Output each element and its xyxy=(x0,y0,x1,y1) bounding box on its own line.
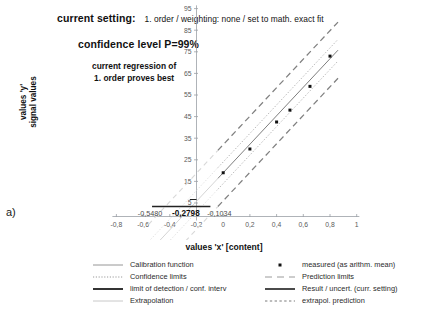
legend-item: Prediction limits xyxy=(264,271,448,282)
x-tick-label: -0,4 xyxy=(164,221,176,228)
chart-legend: Calibration functionConfidence limitslim… xyxy=(92,259,448,306)
y-tick-label: 45 xyxy=(184,113,192,120)
data-point xyxy=(288,109,291,112)
confidence-limit-line xyxy=(218,61,338,189)
data-point xyxy=(329,55,332,58)
x-tick-label: 0,8 xyxy=(325,221,335,228)
x-tick-label: 0 xyxy=(221,221,225,228)
x-tick-label: 0,6 xyxy=(299,221,309,228)
legend-label: Result / uncert. (curr. setting) xyxy=(302,284,398,293)
legend-item: Calibration function xyxy=(92,259,264,270)
legend-label: limit of detection / conf. interv xyxy=(130,284,226,293)
x-axis-annotation-1: -0,5480 xyxy=(138,209,162,218)
calibration-plot: -0,8-0,6-0,4-0,200,20,40,60,815152535455… xyxy=(0,0,448,240)
prediction-limit-line xyxy=(218,78,338,206)
legend-label: Calibration function xyxy=(130,260,194,269)
legend-solid-thin-icon xyxy=(92,260,126,270)
y-tick-label: 75 xyxy=(184,48,192,55)
data-point xyxy=(222,171,225,174)
x-axis-annotation-2: -0,2798 xyxy=(172,209,200,218)
legend-solid-dark-icon xyxy=(264,284,298,294)
legend-dotted-icon xyxy=(92,272,126,282)
legend-item: measured (as arithm. mean) xyxy=(264,259,448,270)
x-tick-label: 1 xyxy=(355,221,359,228)
legend-label: Extrapolation xyxy=(130,296,173,305)
data-point xyxy=(248,148,251,151)
legend-solid-light-icon xyxy=(92,296,126,306)
y-tick-label: 95 xyxy=(184,5,192,12)
prediction-limit-line xyxy=(218,22,338,150)
x-tick-label: -0,6 xyxy=(137,221,149,228)
legend-dotted-small-icon xyxy=(264,296,298,306)
legend-label: Prediction limits xyxy=(302,272,354,281)
y-tick-label: 5 xyxy=(188,199,192,206)
y-tick-label: 25 xyxy=(184,156,192,163)
y-tick-label: 15 xyxy=(184,178,192,185)
data-point xyxy=(308,85,311,88)
legend-item: extrapol. prediction xyxy=(264,295,448,306)
chart-page: a) current setting: 1. order / weighting… xyxy=(0,0,448,311)
data-point xyxy=(275,121,278,124)
x-axis-annotation-3: -0,1034 xyxy=(207,209,231,218)
confidence-limit-line xyxy=(218,39,338,167)
legend-dashed-light-icon xyxy=(264,272,298,282)
y-tick-label: 35 xyxy=(184,135,192,142)
x-tick-label: 0,2 xyxy=(245,221,255,228)
legend-item: Extrapolation xyxy=(92,295,264,306)
legend-marker-dot-icon xyxy=(264,260,298,270)
y-tick-label: 85 xyxy=(184,27,192,34)
y-tick-label: 65 xyxy=(184,70,192,77)
calibration-function-line xyxy=(218,50,338,178)
y-tick-label: 55 xyxy=(184,91,192,98)
x-axis-title: values 'x' [content] xyxy=(0,242,448,252)
legend-item: Confidence limits xyxy=(92,271,264,282)
legend-label: measured (as arithm. mean) xyxy=(302,260,395,269)
legend-item: limit of detection / conf. interv xyxy=(92,283,264,294)
x-tick-label: -0,2 xyxy=(191,221,203,228)
legend-solid-thick-icon xyxy=(92,284,126,294)
x-tick-label: 0,4 xyxy=(272,221,282,228)
legend-item: Result / uncert. (curr. setting) xyxy=(264,283,448,294)
legend-label: extrapol. prediction xyxy=(302,296,365,305)
legend-label: Confidence limits xyxy=(130,272,187,281)
x-tick-label: -0,8 xyxy=(111,221,123,228)
